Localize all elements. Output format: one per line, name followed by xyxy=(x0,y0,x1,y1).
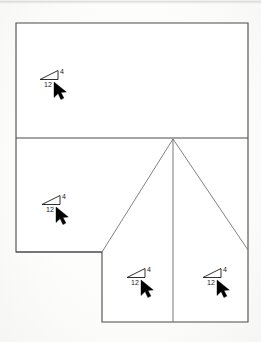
roof-plan-drawing: 4 12 4 12 4 12 4 12 xyxy=(0,0,261,342)
slope-run-label: 12 xyxy=(207,279,215,286)
slope-run-label: 12 xyxy=(44,81,52,88)
slope-run-label: 12 xyxy=(46,206,54,213)
slope-run-label: 12 xyxy=(131,279,139,286)
slope-rise-label: 4 xyxy=(62,193,66,200)
slope-rise-label: 4 xyxy=(60,68,64,75)
slope-rise-label: 4 xyxy=(147,266,151,273)
slope-rise-label: 4 xyxy=(223,266,227,273)
